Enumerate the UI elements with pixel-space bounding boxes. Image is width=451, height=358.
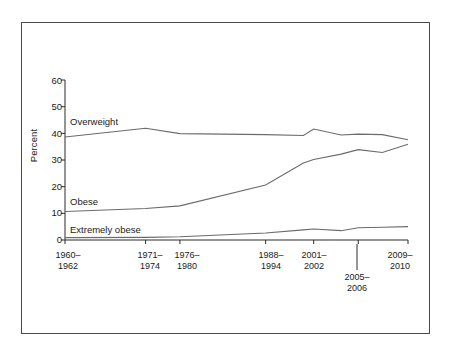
x-tick-label-line1: 1960– — [43, 250, 93, 261]
x-tick-label-1960-1962: 1960– 1962 — [43, 250, 93, 272]
y-tick-label-20: 20 — [38, 181, 62, 192]
x-tick-label-line2: 2002 — [289, 261, 339, 272]
y-tick-label-50: 50 — [38, 101, 62, 112]
x-tick-label-line1: 2009– — [375, 250, 425, 261]
chart-figure: Percent 60 50 40 30 20 10 0 1960– 1962 1… — [0, 0, 451, 358]
x-tick-label-line2: 2006 — [332, 283, 382, 294]
x-tick-label-line1: 2005– — [332, 272, 382, 283]
x-tick-label-1976-1980: 1976– 1980 — [162, 250, 212, 272]
x-tick-label-line1: 1976– — [162, 250, 212, 261]
y-tick-label-10: 10 — [38, 207, 62, 218]
x-tick-label-2009-2010: 2009– 2010 — [375, 250, 425, 272]
y-axis-title: Percent — [28, 111, 39, 181]
y-tick-label-40: 40 — [38, 128, 62, 139]
x-tick-label-line2: 1962 — [43, 261, 93, 272]
y-tick-label-0: 0 — [38, 234, 62, 245]
y-tick-label-60: 60 — [38, 75, 62, 86]
x-tick-label-line2: 1980 — [162, 261, 212, 272]
x-tick-label-line2: 2010 — [375, 261, 425, 272]
y-tick-label-30: 30 — [38, 154, 62, 165]
x-tick-label-2005-2006: 2005– 2006 — [332, 272, 382, 294]
x-tick-label-2001-2002: 2001– 2002 — [289, 250, 339, 272]
x-tick-label-line1: 2001– — [289, 250, 339, 261]
series-label-extremely-obese: Extremely obese — [70, 224, 141, 235]
series-label-obese: Obese — [70, 196, 98, 207]
series-label-overweight: Overweight — [70, 116, 118, 127]
